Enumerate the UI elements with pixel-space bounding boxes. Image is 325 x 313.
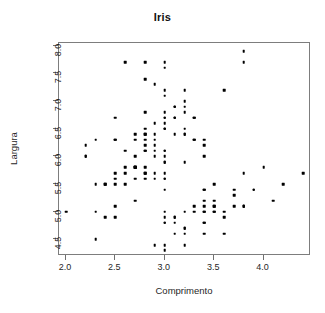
data-point <box>114 116 117 119</box>
data-point <box>173 133 176 136</box>
data-point <box>163 127 166 130</box>
data-point <box>203 199 206 202</box>
data-point <box>163 111 166 114</box>
data-point <box>163 122 166 125</box>
data-point <box>163 67 166 70</box>
data-point <box>124 166 127 169</box>
data-point <box>173 233 176 236</box>
data-point <box>183 244 186 247</box>
x-axis-tick <box>263 255 264 260</box>
x-axis-tick-label: 3.5 <box>207 262 220 272</box>
chart-title: Iris <box>0 11 325 23</box>
data-point <box>124 61 127 64</box>
data-point <box>243 205 246 208</box>
y-axis-tick-label: 6.0 <box>53 154 63 167</box>
data-point <box>134 155 137 158</box>
data-point <box>154 139 157 142</box>
data-point <box>252 188 255 191</box>
data-points-layer <box>59 43 309 254</box>
data-point <box>223 210 226 213</box>
data-point <box>203 210 206 213</box>
data-point <box>144 139 147 142</box>
data-point <box>144 61 147 64</box>
data-point <box>134 166 137 169</box>
data-point <box>114 183 117 186</box>
data-point <box>223 89 226 92</box>
data-point <box>154 122 157 125</box>
data-point <box>272 199 275 202</box>
x-axis-tick-label: 4.0 <box>256 262 269 272</box>
data-point <box>94 210 97 213</box>
data-point <box>163 177 166 180</box>
data-point <box>183 233 186 236</box>
data-point <box>203 188 206 191</box>
data-point <box>163 155 166 158</box>
data-point <box>65 210 68 213</box>
data-point <box>114 172 117 175</box>
data-point <box>203 155 206 158</box>
data-point <box>134 199 137 202</box>
x-axis-label: Comprimento <box>58 285 310 296</box>
plot-area <box>58 42 310 255</box>
data-point <box>144 127 147 130</box>
data-point <box>233 188 236 191</box>
data-point <box>183 133 186 136</box>
data-point <box>163 89 166 92</box>
data-point <box>223 233 226 236</box>
y-axis-label-text: Largura <box>8 132 19 165</box>
data-point <box>183 227 186 230</box>
data-point <box>262 166 265 169</box>
data-point <box>213 199 216 202</box>
data-point <box>154 172 157 175</box>
data-point <box>94 183 97 186</box>
data-point <box>154 150 157 153</box>
data-point <box>144 177 147 180</box>
data-point <box>144 172 147 175</box>
data-point <box>154 244 157 247</box>
x-axis-tick <box>114 255 115 260</box>
data-point <box>173 222 176 225</box>
data-point <box>203 139 206 142</box>
data-point <box>282 183 285 186</box>
data-point <box>163 116 166 119</box>
data-point <box>163 222 166 225</box>
data-point <box>114 205 117 208</box>
data-point <box>213 205 216 208</box>
data-point <box>84 155 87 158</box>
data-point <box>193 205 196 208</box>
data-point <box>233 194 236 197</box>
data-point <box>203 233 206 236</box>
data-point <box>243 50 246 53</box>
data-point <box>302 172 305 175</box>
y-axis-tick-label: 6.5 <box>53 126 63 139</box>
data-point <box>243 61 246 64</box>
x-axis-tick <box>213 255 214 260</box>
data-point <box>183 100 186 103</box>
data-point <box>114 139 117 142</box>
data-point <box>144 133 147 136</box>
data-point <box>154 133 157 136</box>
data-point <box>154 83 157 86</box>
data-point <box>163 188 166 191</box>
data-point <box>183 111 186 114</box>
data-point <box>203 222 206 225</box>
data-point <box>163 216 166 219</box>
scatter-plot-figure: Iris Comprimento Largura 2.02.53.03.54.0… <box>0 0 325 313</box>
data-point <box>124 172 127 175</box>
data-point <box>243 172 246 175</box>
data-point <box>94 238 97 241</box>
data-point <box>163 94 166 97</box>
data-point <box>163 61 166 64</box>
data-point <box>193 116 196 119</box>
x-axis-tick <box>164 255 165 260</box>
x-axis-tick <box>65 255 66 260</box>
data-point <box>104 216 107 219</box>
data-point <box>163 210 166 213</box>
y-axis-tick-label: 4.5 <box>53 237 63 250</box>
data-point <box>193 210 196 213</box>
data-point <box>163 161 166 164</box>
data-point <box>163 244 166 247</box>
x-axis-tick-label: 3.0 <box>157 262 170 272</box>
data-point <box>223 216 226 219</box>
data-point <box>193 139 196 142</box>
